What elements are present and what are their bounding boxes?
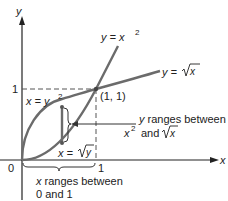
- axes: [0, 16, 219, 200]
- svg-text:y =: y =: [161, 66, 178, 78]
- annotation-y-range: y ranges between x 2 and x: [123, 113, 226, 139]
- x-range-brace: [23, 163, 95, 171]
- svg-text:x: x: [189, 66, 196, 77]
- svg-text:and: and: [141, 127, 159, 139]
- label-sqrt-inverse: x = y: [57, 145, 94, 159]
- label-sqrt: y = x: [161, 64, 200, 78]
- region-between-curves-diagram: y x 0 1 1 y = x 2 y = x x = y 2 x = y (1…: [0, 0, 228, 201]
- svg-text:2: 2: [131, 124, 136, 133]
- x-range-line2: 0 and 1: [36, 188, 73, 200]
- x-tick-label: 1: [98, 162, 104, 174]
- svg-text:x: x: [169, 128, 176, 139]
- svg-text:x: x: [123, 127, 130, 139]
- svg-text:y: y: [85, 147, 92, 158]
- x-range-line1: x ranges between: [35, 175, 123, 187]
- intersection-label: (1, 1): [100, 90, 126, 102]
- svg-text:y = x: y = x: [100, 31, 125, 43]
- diagram-canvas: y x 0 1 1 y = x 2 y = x x = y 2 x = y (1…: [0, 0, 228, 201]
- svg-text:x =: x =: [57, 147, 74, 159]
- intersection-point: [94, 87, 98, 91]
- label-parabola: y = x 2: [100, 28, 140, 43]
- strip-top-point: [60, 105, 64, 109]
- x-axis-label: x: [219, 154, 226, 166]
- svg-text:x = y: x = y: [25, 95, 51, 107]
- annotation-x-range: x ranges between 0 and 1: [35, 175, 123, 200]
- svg-text:2: 2: [58, 92, 63, 101]
- y-axis-arrow-icon: [19, 16, 25, 25]
- y-range-line1: y ranges between: [138, 113, 226, 125]
- y-tick-label: 1: [12, 83, 18, 95]
- y-axis-label: y: [15, 5, 23, 17]
- x-axis-arrow-icon: [210, 157, 219, 163]
- strip-bottom-point: [60, 141, 64, 145]
- origin-label: 0: [8, 162, 14, 174]
- svg-text:2: 2: [135, 28, 140, 37]
- label-parabola-inverse: x = y 2: [25, 92, 63, 107]
